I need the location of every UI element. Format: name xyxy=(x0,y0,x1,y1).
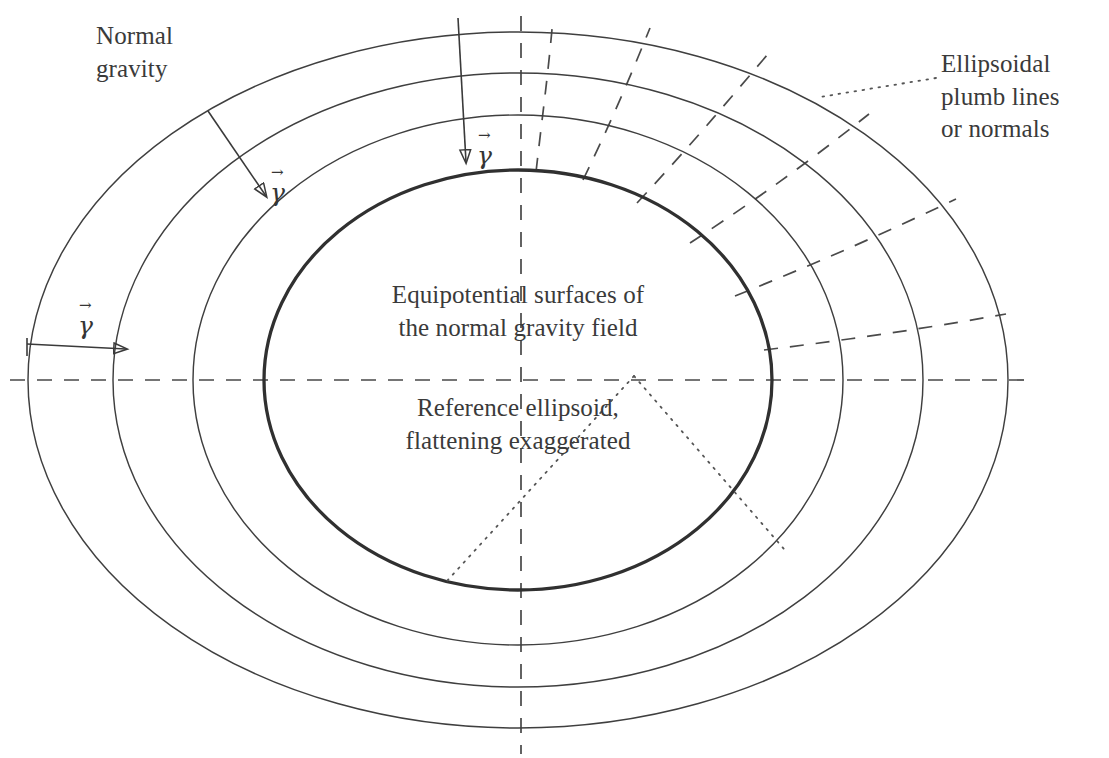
gamma-equator-arrow xyxy=(27,344,126,349)
gamma-glyph: γ xyxy=(78,311,93,340)
plumb-line-6 xyxy=(764,314,1006,350)
gamma-glyph: γ xyxy=(477,141,492,170)
gamma-symbol-upper-left: → γ xyxy=(270,170,285,207)
gamma-symbol-equator: → γ xyxy=(78,303,93,340)
label-equipotential-surfaces: Equipotential surfaces of the normal gra… xyxy=(338,279,698,344)
label-normal-gravity: Normal gravity xyxy=(96,20,173,85)
plumb-line-3 xyxy=(637,54,768,203)
vector-arrow-icon: → xyxy=(271,170,285,177)
plumb-line-2 xyxy=(583,28,650,180)
plumb-lines-leader xyxy=(820,78,936,97)
label-reference-ellipsoid: Reference ellipsoid, flattening exaggera… xyxy=(338,392,698,457)
plumb-line-5 xyxy=(735,199,956,296)
gamma-upperleft-arrow xyxy=(208,111,266,196)
gamma-pole-arrow xyxy=(458,18,466,162)
gamma-glyph: γ xyxy=(270,178,285,207)
gravity-field-diagram: Normal gravity Ellipsoidal plumb lines o… xyxy=(0,0,1109,758)
label-ellipsoidal-plumb-lines: Ellipsoidal plumb lines or normals xyxy=(941,48,1059,146)
vector-arrow-icon: → xyxy=(79,303,93,310)
gamma-symbol-pole: → γ xyxy=(477,133,492,170)
axis-group xyxy=(10,16,1032,754)
vector-arrow-icon: → xyxy=(478,133,492,140)
plumb-line-1 xyxy=(536,18,553,172)
plumb-line-4 xyxy=(690,114,869,243)
